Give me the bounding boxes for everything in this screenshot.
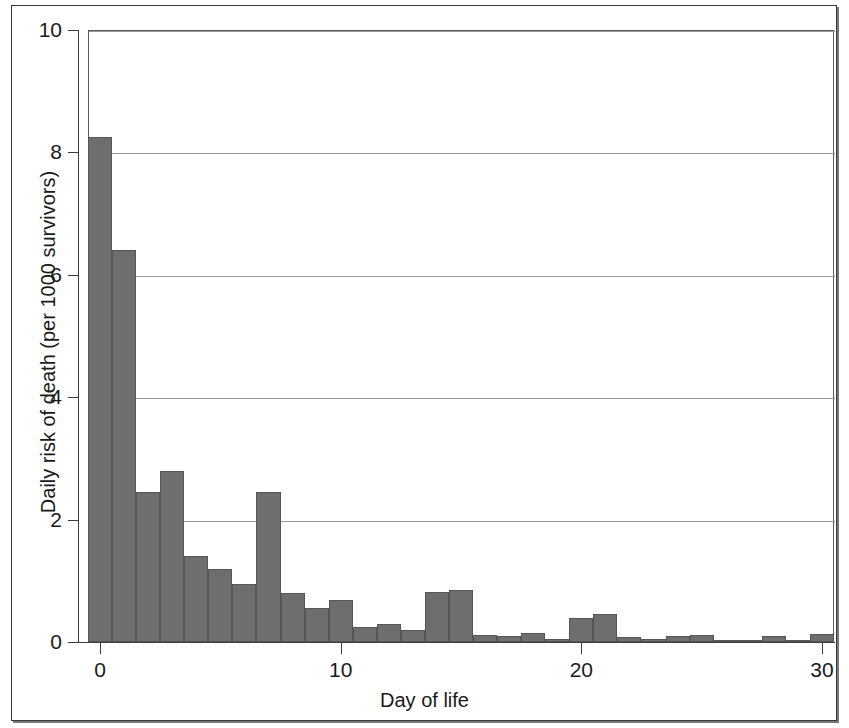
bar-day-15 bbox=[449, 590, 473, 642]
bar-day-12 bbox=[377, 624, 401, 642]
y-tick-mark-10 bbox=[68, 30, 79, 31]
bar-day-16 bbox=[473, 635, 497, 642]
bars-group bbox=[88, 30, 834, 642]
y-tick-mark-2 bbox=[68, 520, 79, 521]
x-axis-title: Day of life bbox=[0, 690, 849, 710]
bar-day-7 bbox=[256, 492, 280, 642]
figure-container: 0246810 0102030 Day of life Daily risk o… bbox=[0, 0, 849, 728]
x-tick-mark-20 bbox=[581, 643, 582, 654]
bar-day-20 bbox=[569, 618, 593, 642]
bar-day-8 bbox=[281, 593, 305, 642]
bar-day-5 bbox=[208, 569, 232, 642]
bar-day-18 bbox=[521, 633, 545, 642]
bar-day-13 bbox=[401, 630, 425, 642]
x-tick-label-10: 10 bbox=[329, 659, 352, 680]
bar-day-2 bbox=[136, 492, 160, 642]
bar-day-6 bbox=[232, 584, 256, 642]
x-axis-line bbox=[78, 642, 835, 643]
bar-day-0 bbox=[88, 137, 112, 642]
x-tick-label-0: 0 bbox=[94, 659, 106, 680]
bar-day-3 bbox=[160, 471, 184, 642]
bar-day-1 bbox=[112, 250, 136, 642]
bar-day-11 bbox=[353, 627, 377, 642]
bar-day-14 bbox=[425, 592, 449, 642]
bar-day-25 bbox=[690, 635, 714, 642]
y-tick-mark-8 bbox=[68, 152, 79, 153]
bar-day-9 bbox=[305, 608, 329, 642]
x-tick-mark-0 bbox=[100, 643, 101, 654]
y-axis-title: Daily risk of death (per 1000 survivors) bbox=[38, 32, 58, 652]
y-tick-mark-4 bbox=[68, 397, 79, 398]
x-tick-label-20: 20 bbox=[570, 659, 593, 680]
y-axis-line bbox=[78, 30, 79, 643]
x-tick-mark-30 bbox=[822, 643, 823, 654]
bar-day-10 bbox=[329, 600, 353, 642]
bar-day-30 bbox=[810, 634, 834, 642]
x-tick-mark-10 bbox=[341, 643, 342, 654]
bar-day-4 bbox=[184, 556, 208, 642]
y-tick-mark-6 bbox=[68, 275, 79, 276]
x-tick-label-30: 30 bbox=[810, 659, 833, 680]
bar-day-21 bbox=[593, 614, 617, 642]
